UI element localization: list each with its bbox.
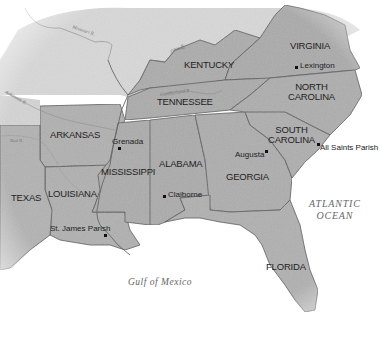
map: KENTUCKY VIRGINIA TENNESSEE NORTH CAROLI… (0, 0, 380, 341)
state-label-tennessee: TENNESSEE (157, 97, 213, 107)
city-marker-claiborne (163, 195, 166, 198)
city-marker-augusta (265, 150, 268, 153)
state-label-south-carolina: SOUTH CAROLINA (268, 125, 315, 145)
state-label-virginia: VIRGINIA (290, 41, 330, 51)
city-label-st-james-parish: St. James Parish (50, 224, 110, 233)
state-label-texas: TEXAS (11, 193, 41, 203)
state-label-georgia: GEORGIA (226, 172, 269, 182)
state-label-alabama: ALABAMA (159, 159, 202, 169)
city-label-augusta: Augusta (235, 150, 264, 159)
map-canvas (0, 0, 380, 341)
city-label-claiborne: Claiborne (168, 190, 202, 199)
state-label-south-carolina-line2: CAROLINA (268, 135, 315, 145)
state-label-florida: FLORIDA (266, 262, 306, 272)
city-marker-lexington (295, 66, 298, 69)
water-label-atlantic-line2: OCEAN (309, 210, 361, 222)
water-label-atlantic-ocean: ATLANTIC OCEAN (309, 198, 361, 222)
state-label-arkansas: ARKANSAS (50, 130, 100, 140)
water-label-atlantic-line1: ATLANTIC (309, 198, 361, 210)
state-label-north-carolina-line2: CAROLINA (288, 92, 335, 102)
river-label-red: Red R. (10, 138, 23, 143)
city-label-grenada: Grenada (112, 137, 143, 146)
city-label-lexington: Lexington (300, 61, 335, 70)
state-label-mississippi: MISSISSIPPI (101, 167, 155, 177)
state-label-north-carolina: NORTH CAROLINA (288, 82, 335, 102)
city-marker-st-james-parish (104, 234, 107, 237)
city-label-all-saints-parish: All Saints Parish (320, 143, 378, 152)
state-label-kentucky: KENTUCKY (184, 60, 234, 70)
water-label-gulf-of-mexico: Gulf of Mexico (128, 277, 192, 287)
state-label-louisiana: LOUISIANA (48, 189, 97, 199)
city-marker-grenada (118, 147, 121, 150)
